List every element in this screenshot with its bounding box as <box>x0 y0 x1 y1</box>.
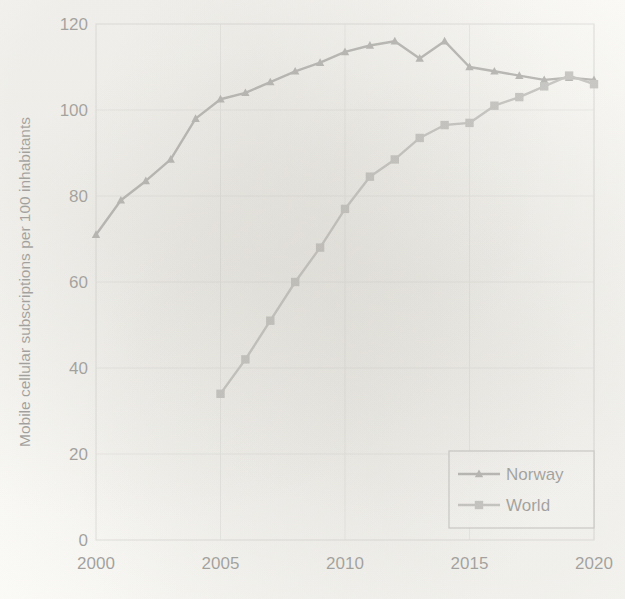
chart-legend: NorwayWorld <box>449 451 594 528</box>
legend-label: Norway <box>506 465 564 484</box>
data-point-marker-square <box>515 93 523 101</box>
data-point-marker-square <box>366 172 374 180</box>
data-point-marker-square <box>416 134 424 142</box>
series-line <box>221 76 595 394</box>
y-axis-title: Mobile cellular subscriptions per 100 in… <box>16 117 33 447</box>
data-point-marker-square <box>590 80 598 88</box>
data-point-marker-square <box>465 119 473 127</box>
y-axis-tick-label: 0 <box>79 531 88 550</box>
y-axis-tick-label: 60 <box>69 273 88 292</box>
data-point-marker-square <box>391 155 399 163</box>
x-axis-tick-label: 2005 <box>202 554 240 573</box>
x-axis-tick-label: 2015 <box>451 554 489 573</box>
x-axis-tick-labels: 20002005201020152020 <box>77 554 613 573</box>
data-point-marker-square <box>440 121 448 129</box>
x-axis-tick-label: 2020 <box>575 554 613 573</box>
data-point-marker-square <box>490 102 498 110</box>
data-point-marker-square <box>316 243 324 251</box>
data-point-marker-square <box>565 71 573 79</box>
y-axis-tick-labels: 020406080100120 <box>60 15 88 550</box>
data-point-marker-square <box>216 390 224 398</box>
legend-label: World <box>506 496 550 515</box>
data-point-marker-square <box>475 501 483 509</box>
legend-box <box>449 451 594 528</box>
line-chart: 020406080100120 20002005201020152020 Mob… <box>0 0 625 599</box>
y-axis-tick-label: 80 <box>69 187 88 206</box>
data-point-marker-triangle <box>440 37 448 45</box>
y-axis-tick-label: 20 <box>69 445 88 464</box>
y-axis-tick-label: 100 <box>60 101 88 120</box>
x-axis-tick-label: 2000 <box>77 554 115 573</box>
data-point-marker-square <box>266 317 274 325</box>
x-axis-tick-label: 2010 <box>326 554 364 573</box>
data-point-marker-square <box>540 82 548 90</box>
chart-figure: 020406080100120 20002005201020152020 Mob… <box>0 0 625 599</box>
series-world <box>216 71 598 398</box>
y-axis-tick-label: 120 <box>60 15 88 34</box>
data-point-marker-square <box>291 278 299 286</box>
y-axis-tick-label: 40 <box>69 359 88 378</box>
data-point-marker-square <box>341 205 349 213</box>
data-point-marker-square <box>241 355 249 363</box>
